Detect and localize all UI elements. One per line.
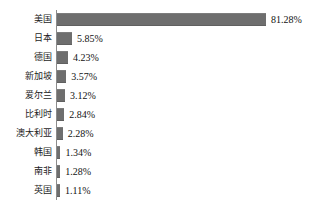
bar-track: 3.57% [57,70,97,83]
bar-value-label: 1.34% [65,147,91,159]
bar-track: 1.11% [57,184,90,197]
table-row: 南非 1.28% [0,162,314,181]
category-label: 美国 [0,14,52,25]
table-row: 澳大利亚 2.28% [0,124,314,143]
bar-track: 81.28% [57,13,302,26]
table-row: 新加坡 3.57% [0,67,314,86]
bar-segment [57,184,60,197]
horizontal-bar-chart: 美国 81.28% 日本 5.85% 德国 4.23% 新加坡 [0,0,314,208]
category-label: 南非 [0,166,52,177]
category-label: 爱尔兰 [0,90,52,101]
category-label: 韩国 [0,147,52,158]
table-row: 日本 5.85% [0,29,314,48]
bar-track: 2.28% [57,127,94,140]
plot-area: 美国 81.28% 日本 5.85% 德国 4.23% 新加坡 [0,10,314,200]
bar-value-label: 81.28% [271,14,302,26]
category-label: 新加坡 [0,71,52,82]
bar-value-label: 2.28% [68,128,94,140]
category-label: 日本 [0,33,52,44]
bar-value-label: 2.84% [69,109,95,121]
category-label: 英国 [0,185,52,196]
bar-track: 4.23% [57,51,99,64]
table-row: 比利时 2.84% [0,105,314,124]
bar-segment [57,89,65,102]
bar-segment [57,146,60,159]
bar-value-label: 3.12% [70,90,96,102]
table-row: 美国 81.28% [0,10,314,29]
category-label: 澳大利亚 [0,128,52,139]
bar-segment [57,70,66,83]
category-label: 德国 [0,52,52,63]
bar-segment [57,127,63,140]
table-row: 英国 1.11% [0,181,314,200]
bar-segment [57,51,68,64]
table-row: 韩国 1.34% [0,143,314,162]
bar-segment [57,165,60,178]
bar-value-label: 1.28% [65,166,91,178]
bar-segment [57,13,266,26]
bar-track: 1.28% [57,165,91,178]
category-label: 比利时 [0,109,52,120]
table-row: 德国 4.23% [0,48,314,67]
bar-value-label: 1.11% [65,185,90,197]
bar-value-label: 5.85% [77,33,103,45]
bar-value-label: 3.57% [71,71,97,83]
bar-track: 2.84% [57,108,95,121]
bar-value-label: 4.23% [73,52,99,64]
bar-track: 5.85% [57,32,103,45]
bar-track: 1.34% [57,146,91,159]
bar-segment [57,108,64,121]
bar-segment [57,32,72,45]
table-row: 爱尔兰 3.12% [0,86,314,105]
bar-track: 3.12% [57,89,96,102]
